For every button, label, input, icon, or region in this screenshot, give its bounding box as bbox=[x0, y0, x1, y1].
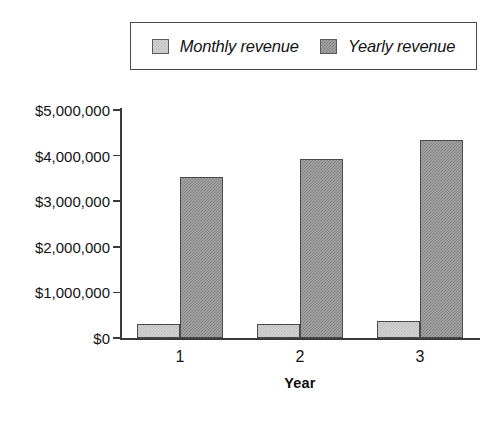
y-axis-tick-label: $4,000,000 bbox=[6, 147, 110, 164]
y-axis-tick-mark bbox=[113, 200, 120, 202]
bar-yearly-revenue-2[interactable] bbox=[300, 159, 343, 338]
y-axis-tick-mark bbox=[113, 155, 120, 157]
bar-yearly-revenue-3[interactable] bbox=[420, 140, 463, 338]
y-axis-line bbox=[120, 108, 122, 340]
bar-chart: Monthly revenue Yearly revenue $0$1,000,… bbox=[0, 0, 504, 427]
bar-monthly-revenue-2[interactable] bbox=[257, 324, 300, 338]
x-axis-tick-label: 3 bbox=[390, 348, 450, 366]
y-axis-tick-mark bbox=[113, 246, 120, 248]
y-axis-tick-mark bbox=[113, 292, 120, 294]
y-axis-tick-labels: $0$1,000,000$2,000,000$3,000,000$4,000,0… bbox=[0, 0, 110, 427]
y-axis-tick-label: $2,000,000 bbox=[6, 238, 110, 255]
bar-monthly-revenue-3[interactable] bbox=[377, 321, 420, 338]
y-axis-tick-mark bbox=[113, 109, 120, 111]
y-axis-tick-label: $3,000,000 bbox=[6, 193, 110, 210]
bar-yearly-revenue-1[interactable] bbox=[180, 177, 223, 338]
x-axis-title: Year bbox=[120, 375, 480, 391]
y-axis-tick-label: $5,000,000 bbox=[6, 102, 110, 119]
y-axis-tick-mark bbox=[113, 337, 120, 339]
x-axis-tick-label: 2 bbox=[270, 348, 330, 366]
x-axis-tick-label: 1 bbox=[150, 348, 210, 366]
x-axis-line bbox=[120, 338, 480, 340]
y-axis-tick-label: $0 bbox=[6, 330, 110, 347]
y-axis-tick-label: $1,000,000 bbox=[6, 284, 110, 301]
bar-monthly-revenue-1[interactable] bbox=[137, 324, 180, 338]
plot-area: $0$1,000,000$2,000,000$3,000,000$4,000,0… bbox=[0, 0, 504, 427]
